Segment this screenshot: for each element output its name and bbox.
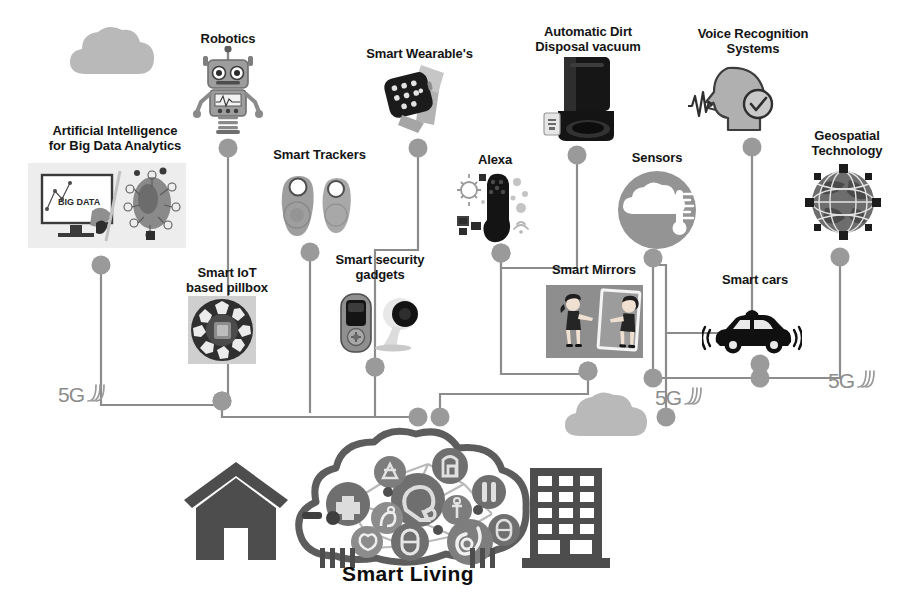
node-connector-dot[interactable] xyxy=(301,243,320,262)
connector-line xyxy=(222,401,418,417)
node-connector-dot[interactable] xyxy=(219,139,238,158)
svg-text:BIG DATA: BIG DATA xyxy=(58,197,101,207)
mirror-icon xyxy=(546,285,643,358)
signal-waves-icon xyxy=(854,368,876,395)
house-icon xyxy=(184,462,288,560)
signal-waves-icon xyxy=(84,382,106,409)
node-connector-dot[interactable] xyxy=(644,249,663,268)
pillbox-icon xyxy=(188,296,256,364)
junction-dot xyxy=(431,408,450,427)
node-connector-dot[interactable] xyxy=(409,139,428,158)
junction-dot xyxy=(213,392,232,411)
globe-satellite-icon xyxy=(803,162,883,242)
five-g-label: 5G xyxy=(655,386,681,409)
voice-assistant-icon xyxy=(455,168,543,248)
office-building-icon xyxy=(522,462,610,568)
signal-waves-icon xyxy=(681,385,703,412)
node-connector-dot[interactable] xyxy=(568,146,587,165)
five-g-badge: 5G xyxy=(58,382,106,409)
robot-icon xyxy=(192,46,264,134)
big-data-monitor-icon: BIG DATA xyxy=(28,163,186,248)
robot-vacuum-icon xyxy=(540,57,618,142)
node-connector-dot[interactable] xyxy=(831,248,850,267)
five-g-label: 5G xyxy=(828,369,854,392)
junction-dot xyxy=(751,369,770,388)
smart-watch-icon xyxy=(378,63,463,135)
cloud-top-left-icon xyxy=(66,22,158,80)
junction-dot xyxy=(366,358,385,377)
page-title: Smart Living xyxy=(303,562,513,586)
key-tracker-icon xyxy=(277,170,362,242)
network-cloud-icon xyxy=(278,426,538,568)
door-lock-camera-icon xyxy=(331,292,429,354)
speaking-head-icon xyxy=(688,66,782,136)
junction-dot xyxy=(579,362,598,381)
five-g-label: 5G xyxy=(58,383,84,406)
node-connector-dot[interactable] xyxy=(743,138,762,157)
node-connector-dot[interactable] xyxy=(92,256,111,275)
temperature-sensor-icon xyxy=(617,170,697,250)
junction-dot xyxy=(409,408,428,427)
five-g-badge: 5G xyxy=(655,385,703,412)
cloud-bottom-right-icon xyxy=(562,388,650,440)
five-g-badge: 5G xyxy=(828,368,876,395)
smart-living-diagram: BIG DATA xyxy=(0,0,906,606)
connected-car-icon xyxy=(702,300,802,358)
